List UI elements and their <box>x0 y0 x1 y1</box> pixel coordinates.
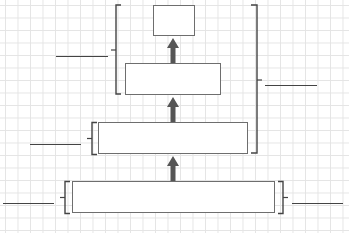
level-1-left-annotation-line <box>3 203 54 204</box>
level-4-box <box>153 5 195 36</box>
diagram-canvas <box>0 0 349 233</box>
right-group-annotation-line <box>265 85 317 86</box>
level-2-box <box>98 122 248 154</box>
level-1-right-bracket <box>276 180 290 215</box>
arrow-up-icon <box>166 96 180 123</box>
level-2-bracket <box>85 121 99 156</box>
arrow-up-icon <box>166 155 180 182</box>
right-group-bracket <box>250 3 264 155</box>
level-3-box <box>125 63 221 95</box>
level-2-annotation-line <box>30 144 81 145</box>
level-1-box <box>72 181 275 213</box>
level-1-left-bracket <box>58 180 72 215</box>
level-1-right-annotation-line <box>292 203 343 204</box>
arrow-up-icon <box>166 37 180 64</box>
left-group-annotation-line <box>56 56 108 57</box>
left-group-bracket <box>108 3 122 96</box>
